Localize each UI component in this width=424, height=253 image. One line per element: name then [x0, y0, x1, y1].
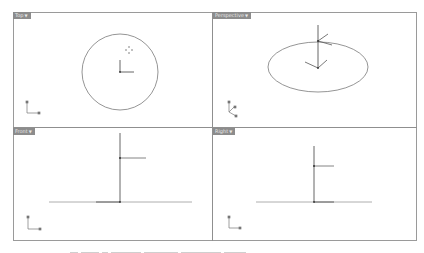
triangle-down-icon: ▼: [29, 129, 32, 134]
viewport-label-text: Perspective: [215, 12, 244, 18]
viewport-front[interactable]: Front▼: [13, 128, 212, 241]
viewport-label-top[interactable]: Top▼: [13, 12, 31, 19]
viewport-label-text: Right: [215, 128, 228, 134]
viewport-divider-horizontal[interactable]: [13, 127, 417, 128]
viewport-label-right[interactable]: Right▼: [213, 128, 235, 135]
viewport-top[interactable]: Top▼: [13, 12, 212, 127]
figure-caption-cropped: [70, 244, 370, 253]
viewport-label-text: Top: [15, 12, 23, 18]
viewport-label-perspective[interactable]: Perspective▼: [213, 12, 251, 19]
viewport-label-front[interactable]: Front▼: [13, 128, 35, 135]
triangle-down-icon: ▼: [245, 13, 248, 18]
viewport-label-text: Front: [15, 128, 28, 134]
viewport-right[interactable]: Right▼: [213, 128, 417, 241]
viewport-perspective[interactable]: Perspective▼: [213, 12, 417, 127]
triangle-down-icon: ▼: [24, 13, 27, 18]
triangle-down-icon: ▼: [229, 129, 232, 134]
